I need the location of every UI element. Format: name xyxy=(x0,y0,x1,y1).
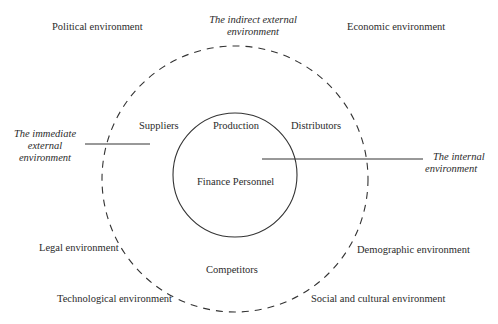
competitors-label: Competitors xyxy=(206,264,258,276)
demographic-environment-label: Demographic environment xyxy=(357,244,470,256)
legal-environment-label: Legal environment xyxy=(39,242,119,254)
immediate-external-line2: external xyxy=(10,140,80,152)
finance-personnel-label: Finance Personnel xyxy=(197,176,274,188)
immediate-external-line3: environment xyxy=(10,152,80,164)
economic-environment-label: Economic environment xyxy=(347,21,445,33)
political-environment-label: Political environment xyxy=(52,21,143,33)
internal-line2: environment xyxy=(425,163,485,175)
internal-line1: The internal xyxy=(425,151,485,163)
indirect-external-line2: environment xyxy=(178,26,328,38)
immediate-external-environment-title: The immediate external environment xyxy=(10,128,80,164)
indirect-external-line1: The indirect external xyxy=(178,14,328,26)
internal-environment-title: The internal environment xyxy=(425,151,485,175)
suppliers-label: Suppliers xyxy=(139,120,179,132)
production-label: Production xyxy=(213,120,259,132)
distributors-label: Distributors xyxy=(291,120,341,132)
business-environment-diagram: Political environment Economic environme… xyxy=(0,0,498,324)
social-cultural-environment-label: Social and cultural environment xyxy=(311,293,445,305)
indirect-external-environment-title: The indirect external environment xyxy=(178,14,328,38)
immediate-external-line1: The immediate xyxy=(10,128,80,140)
technological-environment-label: Technological environment xyxy=(57,293,172,305)
